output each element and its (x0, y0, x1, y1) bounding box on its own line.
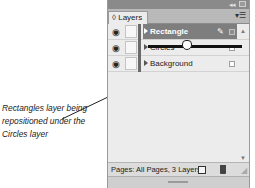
layer-list: ◉ Rectangle ✎ ◉ Circles ◉ Background (108, 24, 249, 72)
tab-layers[interactable]: ◊ Layers (108, 11, 148, 24)
pen-icon: ✎ (217, 27, 224, 36)
lock-toggle[interactable] (125, 25, 137, 38)
scroll-up-arrow-icon[interactable]: ▲ (240, 28, 246, 34)
lock-toggle[interactable] (125, 41, 137, 54)
panel-menu-icon[interactable]: ▾☰ (235, 12, 246, 20)
trash-icon[interactable] (220, 165, 226, 174)
resize-handle[interactable] (168, 181, 188, 183)
layer-name: Background (143, 56, 237, 71)
selection-indicator[interactable] (229, 61, 235, 67)
selection-indicator[interactable] (229, 29, 235, 35)
eye-icon[interactable]: ◉ (110, 27, 122, 37)
close-icon[interactable] (239, 1, 246, 7)
grab-hand-cursor-icon (182, 40, 192, 50)
expand-triangle-icon[interactable] (144, 28, 148, 34)
lock-toggle[interactable] (125, 57, 137, 70)
expand-triangle-icon[interactable] (144, 60, 148, 66)
layer-row-circles[interactable]: ◉ Circles (108, 40, 249, 56)
panel-footer: Pages: All Pages, 3 Layers ◢ (108, 162, 249, 177)
scroll-down-arrow-icon[interactable]: ▼ (240, 155, 246, 161)
layers-panel: ◂◂ ◊ Layers ▾☰ ◉ Rectangle ✎ ◉ Circles ◉ (107, 0, 250, 188)
status-text: Pages: All Pages, 3 Layers (111, 163, 201, 177)
layer-color-bar (138, 24, 141, 40)
panel-tab-row: ◊ Layers ▾☰ (108, 9, 249, 24)
layer-color-bar (138, 40, 141, 56)
drop-indicator-line (148, 45, 242, 48)
resize-grip-icon[interactable]: ◢ (241, 166, 247, 175)
eye-icon[interactable]: ◉ (110, 43, 122, 53)
new-layer-icon[interactable] (198, 166, 206, 174)
layer-row-background[interactable]: ◉ Background (108, 56, 249, 72)
eye-icon[interactable]: ◉ (110, 59, 122, 69)
panel-title-bar[interactable]: ◂◂ (108, 0, 249, 9)
double-arrow-icon[interactable]: ◂◂ (229, 0, 235, 9)
layer-row-rectangle[interactable]: ◉ Rectangle ✎ (108, 24, 249, 40)
panel-bottom-edge (108, 176, 249, 188)
layer-color-bar (138, 56, 141, 72)
